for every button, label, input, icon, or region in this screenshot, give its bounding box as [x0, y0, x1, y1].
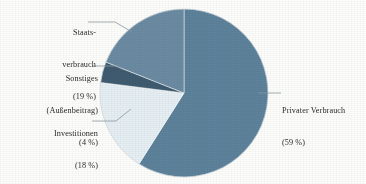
label-privater-verbrauch-value: (59 %) — [282, 138, 366, 149]
label-investitionen-line1: Investitionen — [2, 129, 98, 140]
label-privater-verbrauch-line1: Privater Verbrauch — [282, 106, 366, 117]
label-sonstiges-line1: Sonstiges — [2, 74, 98, 85]
label-staatsverbrauch-line1: Staats- — [18, 28, 96, 39]
label-privater-verbrauch: Privater Verbrauch (59 %) — [282, 85, 366, 170]
pie-chart-figure: Staats- verbrauch (19 %) Sonstiges (Auße… — [0, 0, 366, 184]
label-investitionen-value: (18 %) — [2, 161, 98, 172]
label-investitionen: Investitionen (18 %) — [2, 108, 98, 184]
pie-slices — [100, 9, 268, 177]
